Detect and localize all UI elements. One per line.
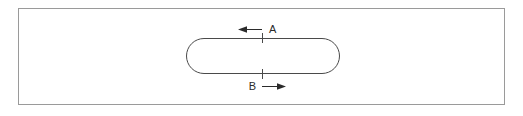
- drawing-canvas: A B: [0, 0, 523, 116]
- technical-drawing-figure: A B: [0, 0, 523, 116]
- dimension-label-a: A: [269, 23, 277, 35]
- rounded-slot: [187, 39, 340, 74]
- dimension-label-b: B: [249, 80, 256, 92]
